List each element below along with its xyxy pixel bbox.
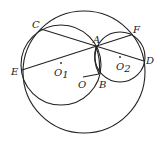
label-f: F	[132, 24, 141, 35]
point-o2-dot	[119, 56, 121, 58]
circle-o1	[21, 25, 101, 105]
point-o1-dot	[60, 62, 62, 64]
label-d: D	[145, 55, 154, 66]
label-o1: O1	[54, 67, 69, 80]
segment-ob	[83, 74, 99, 77]
label-a: A	[92, 34, 100, 45]
label-o2: O2	[116, 61, 131, 74]
label-e: E	[10, 66, 19, 77]
label-c: C	[32, 19, 40, 30]
geometry-diagram: C A F D E B O O1 O2	[0, 0, 168, 152]
label-b: B	[98, 79, 106, 90]
label-o: O	[78, 79, 86, 90]
